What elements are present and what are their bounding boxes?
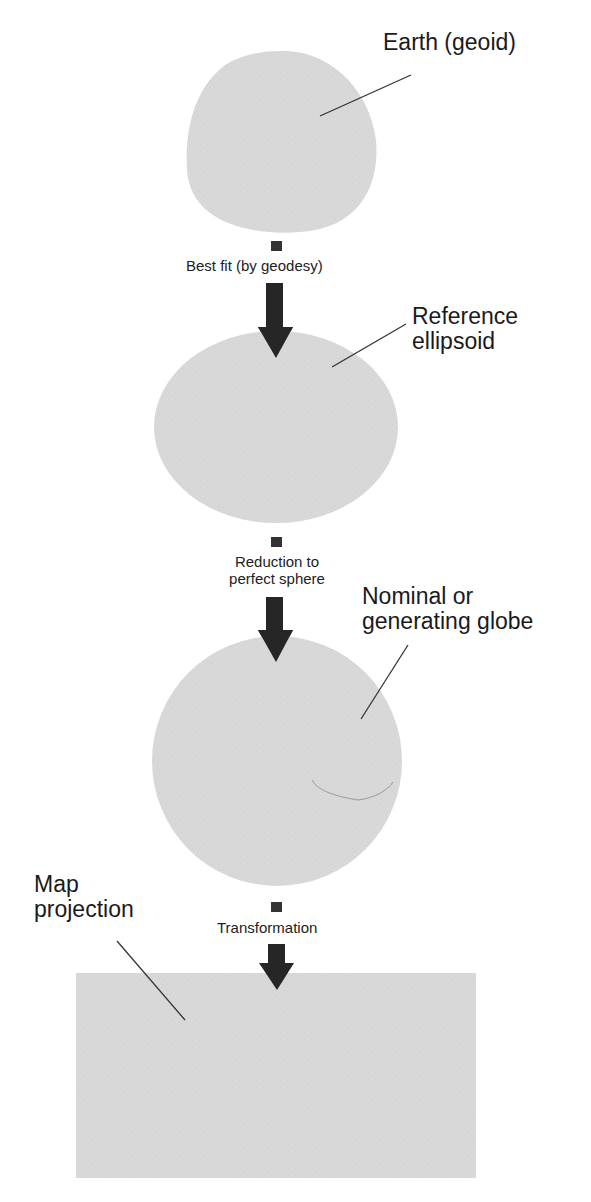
step-marker [271, 902, 282, 912]
map-label-line2: projection [34, 897, 134, 922]
reduction-label-line1: Reduction to [214, 554, 340, 571]
map-projection-label: Map projection [34, 872, 134, 923]
step-marker [271, 241, 282, 251]
reduction-label-line2: perfect sphere [214, 571, 340, 588]
transformation-transition-label: Transformation [217, 920, 317, 937]
geoid-shape [187, 51, 377, 233]
globe-label-line1: Nominal or [362, 584, 533, 609]
map-label-line1: Map [34, 872, 134, 897]
map-projection-process-diagram: Earth (geoid) Best fit (by geodesy) Refe… [0, 0, 591, 1202]
map-projection-shape [76, 973, 476, 1178]
geoid-label: Earth (geoid) [383, 30, 516, 55]
globe-label: Nominal or generating globe [362, 584, 533, 635]
ellipsoid-label-line2: ellipsoid [412, 329, 518, 354]
ellipsoid-label: Reference ellipsoid [412, 304, 518, 355]
best-fit-transition-label: Best fit (by geodesy) [186, 258, 323, 275]
generating-globe-shape [152, 636, 402, 886]
reduction-transition-label: Reduction to perfect sphere [214, 554, 340, 587]
ellipsoid-leader-line [332, 324, 406, 367]
ellipsoid-label-line1: Reference [412, 304, 518, 329]
reference-ellipsoid-shape [154, 331, 398, 523]
step-marker [271, 537, 282, 547]
globe-label-line2: generating globe [362, 609, 533, 634]
